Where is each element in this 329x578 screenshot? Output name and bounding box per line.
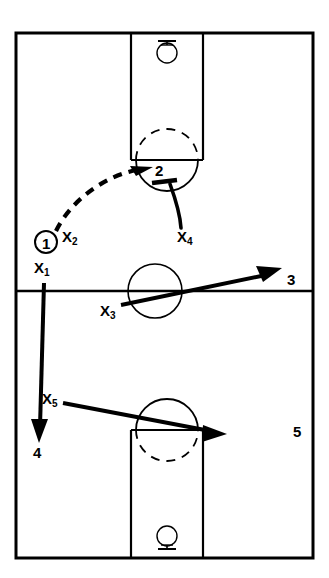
defender-x3-sub: 3: [110, 310, 116, 321]
defender-x5-letter: X: [42, 390, 52, 407]
defender-x4-sub: 4: [187, 236, 193, 247]
defender-label-x5: X5: [42, 391, 58, 406]
defender-x5-sub: 5: [52, 398, 58, 409]
defender-label-x2: X2: [62, 229, 78, 244]
player-label-4: 4: [33, 445, 41, 460]
defender-label-x3: X3: [100, 303, 116, 318]
defender-x4-letter: X: [177, 228, 187, 245]
court-svg: [0, 0, 329, 578]
defender-label-x1: X1: [34, 260, 50, 275]
player-label-1: 1: [42, 236, 50, 251]
defender-label-x4: X4: [177, 229, 193, 244]
defender-x2-letter: X: [62, 228, 72, 245]
player-label-3: 3: [287, 272, 295, 287]
player-label-2: 2: [155, 163, 163, 178]
defender-x2-sub: 2: [72, 236, 78, 247]
defender-x1-sub: 1: [44, 267, 50, 278]
basketball-play-diagram: 1 2 3 4 5 X1 X2 X3 X4 X5: [0, 0, 329, 578]
screen-x4-bar: [152, 180, 177, 183]
defender-x3-letter: X: [100, 302, 110, 319]
player-label-5: 5: [293, 424, 301, 439]
defender-x1-letter: X: [34, 259, 44, 276]
